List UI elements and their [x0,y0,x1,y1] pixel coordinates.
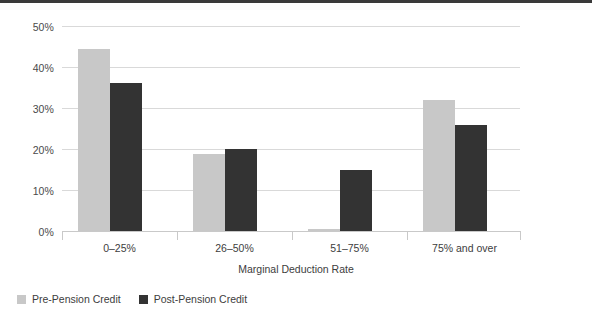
x-axis-tick [62,231,63,240]
gridline-50 [62,26,520,27]
bar-post-pension-credit-51-75 [340,170,372,232]
gridline-baseline-0 [62,231,520,232]
x-axis-tick [407,231,408,240]
bar-post-pension-credit-0-25 [110,83,142,231]
bar-pre-pension-credit-26-50 [193,154,225,231]
y-tick-label: 10% [8,185,54,197]
y-tick-label: 0% [8,226,54,238]
x-category-label-51-75: 51–75% [292,242,407,254]
legend-label-post: Post-Pension Credit [154,293,247,305]
bar-chart-figure: 50% 40% 30% 20% 10% 0% 0–25% 26–50% 51–7… [0,3,592,321]
y-tick-label: 50% [8,21,54,33]
bar-pre-pension-credit-75-and-over [423,100,455,231]
x-axis-tick [520,231,521,240]
legend-swatch-icon-post [139,295,148,304]
x-category-label-0-25: 0–25% [62,242,177,254]
bar-pre-pension-credit-0-25 [78,49,110,232]
legend-swatch-icon-pre [17,295,26,304]
y-tick-label: 30% [8,103,54,115]
y-tick-label: 40% [8,62,54,74]
bar-post-pension-credit-26-50 [225,149,257,231]
legend-item-post-pension-credit: Post-Pension Credit [139,293,247,305]
legend-item-pre-pension-credit: Pre-Pension Credit [17,293,121,305]
x-axis-title: Marginal Deduction Rate [0,263,592,275]
x-category-label-26-50: 26–50% [177,242,292,254]
gridline-40 [62,67,520,68]
legend-label-pre: Pre-Pension Credit [32,293,121,305]
x-category-label-75-and-over: 75% and over [407,242,522,254]
bar-pre-pension-credit-51-75 [308,229,340,232]
plot-area [62,26,520,231]
y-tick-label: 20% [8,144,54,156]
x-axis-tick [177,231,178,240]
bar-post-pension-credit-75-and-over [455,125,487,231]
x-axis-tick [292,231,293,240]
chart-legend: Pre-Pension Credit Post-Pension Credit [17,293,247,305]
